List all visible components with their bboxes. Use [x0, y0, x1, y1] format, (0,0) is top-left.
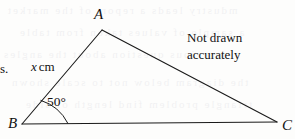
angle-label-b: 50° [47, 95, 66, 109]
side-bc-line [22, 122, 277, 124]
geometry-figure: mdustry leads a report of the market a s… [0, 0, 295, 139]
stray-text-fragment: s. [0, 62, 8, 75]
side-label-ab-unit: cm [39, 59, 55, 74]
side-label-ab: xcm [31, 60, 55, 73]
note-line-2: accurately [187, 46, 242, 63]
vertex-label-c: C [282, 118, 292, 133]
note-line-1: Not drawn [187, 29, 242, 46]
vertex-label-a: A [94, 7, 103, 22]
not-drawn-accurately-note: Not drawn accurately [187, 29, 242, 63]
side-label-ab-variable: x [31, 59, 39, 74]
side-ab-line [22, 30, 102, 124]
vertex-label-b: B [8, 116, 17, 131]
